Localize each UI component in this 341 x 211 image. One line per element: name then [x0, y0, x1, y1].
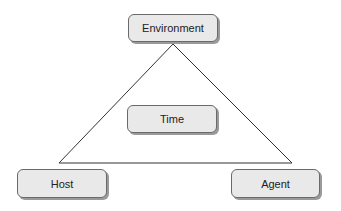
host-label: Host: [51, 178, 74, 190]
environment-node: Environment: [128, 14, 218, 42]
agent-label: Agent: [261, 178, 290, 190]
agent-node: Agent: [231, 169, 320, 198]
host-node: Host: [17, 169, 107, 198]
time-label: Time: [160, 113, 184, 125]
time-node: Time: [127, 105, 217, 133]
environment-label: Environment: [142, 22, 204, 34]
